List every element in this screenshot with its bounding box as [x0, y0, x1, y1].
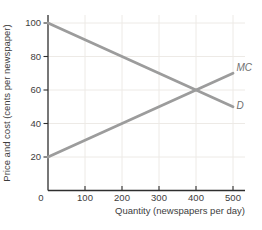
y-tick-label: 40: [30, 118, 41, 129]
x-tick-label: 200: [114, 192, 130, 203]
x-tick-label: 400: [188, 192, 204, 203]
x-tick-label: 500: [225, 192, 241, 203]
series-line-mc: [48, 73, 233, 157]
y-tick-label: 100: [25, 17, 41, 28]
series-label-d: D: [237, 100, 244, 111]
y-tick-label: 80: [30, 51, 41, 62]
x-axis-title: Quantity (newspapers per day): [115, 205, 245, 216]
series-label-mc: MC: [237, 62, 253, 73]
x-tick-label: 300: [151, 192, 167, 203]
x-tick-label: 100: [77, 192, 93, 203]
grid-layer: [48, 15, 245, 191]
y-tick-label: 20: [30, 151, 41, 162]
axis-layer: 100200300400500204060801000: [25, 15, 245, 203]
newspaper-market-chart: 100200300400500204060801000 MCD Price an…: [0, 0, 262, 230]
origin-label: 0: [38, 192, 43, 203]
y-axis-title: Price and cost (cents per newspaper): [1, 24, 12, 181]
chart-svg: 100200300400500204060801000 MCD Price an…: [0, 0, 262, 230]
series-line-d: [48, 23, 233, 107]
y-tick-label: 60: [30, 84, 41, 95]
